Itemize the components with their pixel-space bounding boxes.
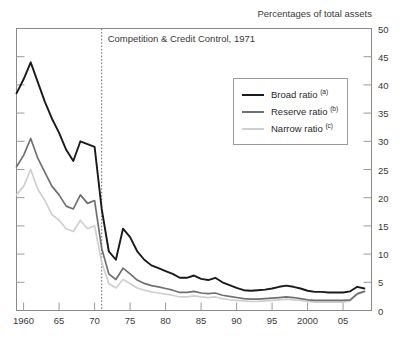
y-axis-tick-label: 25	[378, 164, 389, 175]
y-axis-tick-label: 50	[378, 23, 389, 34]
y-axis-tick-label: 10	[378, 249, 389, 260]
y-axis-tick-label: 15	[378, 220, 389, 231]
legend-label-text: Broad ratio	[271, 90, 317, 101]
x-axis-tick-label: 80	[160, 315, 171, 326]
y-axis-tick-label: 20	[378, 192, 389, 203]
legend-item[interactable]: Reserve ratio (b)	[242, 103, 338, 120]
chart-container: Percentages of total assets 504540353025…	[0, 0, 403, 341]
x-axis-tick-label: 75	[125, 315, 136, 326]
x-axis-tick-label: 05	[338, 315, 349, 326]
legend-label-text: Narrow ratio	[271, 124, 323, 135]
y-axis-tick-label: 45	[378, 51, 389, 62]
chart-plot-svg	[0, 0, 403, 341]
legend-item-label: Reserve ratio (b)	[271, 105, 338, 117]
legend-swatch-icon	[242, 111, 264, 113]
legend-label-text: Reserve ratio	[271, 107, 328, 118]
legend-swatch-icon	[242, 94, 264, 96]
legend-swatch-icon	[242, 128, 264, 130]
x-axis-tick-label: 90	[231, 315, 242, 326]
ccc-annotation-label: Competition & Credit Control, 1971	[108, 33, 255, 44]
y-axis-tick-label: 30	[378, 136, 389, 147]
y-axis-tick-label: 5	[378, 277, 383, 288]
chart-legend: Broad ratio (a)Reserve ratio (b)Narrow r…	[233, 78, 348, 145]
legend-item[interactable]: Broad ratio (a)	[242, 86, 338, 103]
legend-item-label: Broad ratio (a)	[271, 88, 328, 100]
y-axis-tick-label: 0	[378, 305, 383, 316]
legend-footnote-marker: (b)	[330, 105, 338, 112]
legend-footnote-marker: (a)	[320, 88, 328, 95]
x-axis-tick-label: 2000	[297, 315, 318, 326]
y-axis-tick-label: 40	[378, 79, 389, 90]
x-axis-tick-label: 70	[89, 315, 100, 326]
legend-item[interactable]: Narrow ratio (c)	[242, 120, 338, 137]
x-axis-tick-label: 65	[54, 315, 65, 326]
y-axis-tick-label: 35	[378, 108, 389, 119]
x-axis-tick-label: 1960	[13, 315, 34, 326]
series-line-narrow-ratio	[17, 170, 365, 303]
x-axis-tick-label: 95	[267, 315, 278, 326]
x-axis-tick-label: 85	[196, 315, 207, 326]
legend-item-label: Narrow ratio (c)	[271, 122, 333, 134]
legend-footnote-marker: (c)	[325, 122, 333, 129]
